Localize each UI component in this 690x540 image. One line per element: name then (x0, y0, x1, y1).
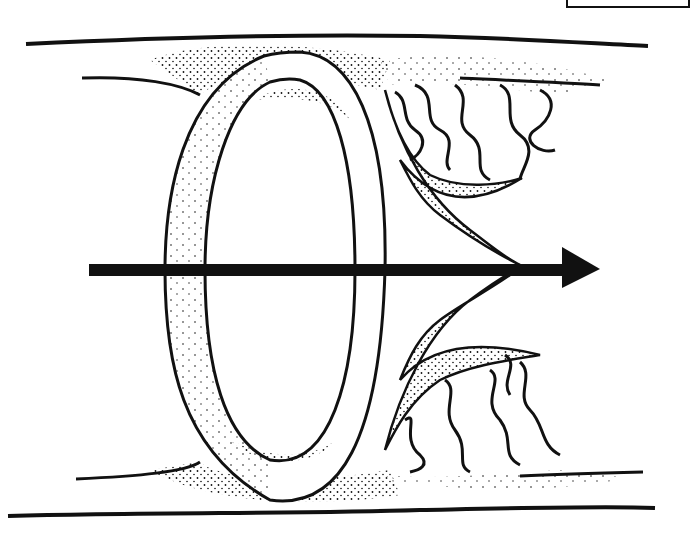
tube-bottom-wall (8, 507, 655, 516)
vortex-ring (165, 52, 385, 501)
lower-wake-lobe (385, 268, 540, 450)
tube-top-wall (26, 35, 648, 46)
